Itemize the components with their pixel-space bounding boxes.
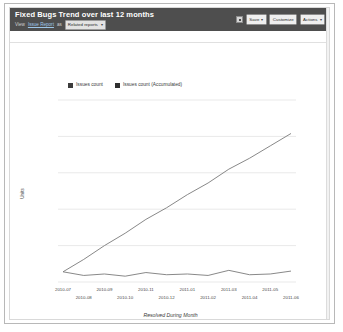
- view-label: View: [15, 22, 25, 28]
- series-line-issues-count: [63, 270, 291, 276]
- save-button[interactable]: Save ▾: [246, 14, 267, 25]
- x-axis-tick-label: 2010-11: [138, 287, 154, 292]
- grid-icon[interactable]: [236, 16, 243, 23]
- issue-report-link[interactable]: Issue Report: [28, 22, 54, 28]
- header-actions-group: Save ▾ Customize Actions ▾: [236, 14, 325, 25]
- chevron-down-icon: ▾: [320, 16, 322, 24]
- customize-button[interactable]: Customize: [269, 14, 297, 25]
- legend-swatch-issues-count: [68, 83, 73, 88]
- x-axis-tick-label: 2010-07: [55, 287, 71, 292]
- vertical-scrollbar[interactable]: [326, 8, 329, 319]
- x-axis-tick-label: 2011-02: [200, 295, 216, 300]
- x-axis-tick-label: 2010-12: [159, 295, 175, 300]
- series-line-issues-count-accumulated: [63, 133, 291, 271]
- related-reports-value: Related reports: [68, 21, 98, 29]
- y-axis-label: Units: [20, 174, 25, 214]
- legend-label-issues-count: Issues count: [76, 82, 103, 88]
- legend-item-issues-count-accumulated: Issues count (Accumulated): [115, 82, 182, 88]
- view-connector-label: as: [57, 22, 62, 28]
- x-axis-tick-label: 2011-04: [242, 295, 258, 300]
- report-subtitle-bar: All Bugzendor data from current view: [10, 31, 329, 43]
- legend-label-issues-count-accumulated: Issues count (Accumulated): [123, 82, 182, 88]
- chevron-down-icon: ▾: [101, 21, 103, 29]
- save-button-label: Save: [249, 15, 259, 24]
- x-axis-label: Resolved During Month: [10, 312, 330, 318]
- chart-legend: Issues count Issues count (Accumulated): [68, 82, 182, 88]
- x-axis-tick-label: 2011-05: [262, 287, 278, 292]
- x-axis-tick-label: 2010-09: [96, 287, 112, 292]
- x-axis-tick-label: 2011-01: [179, 287, 195, 292]
- legend-item-issues-count: Issues count: [68, 82, 103, 88]
- legend-swatch-issues-count-accumulated: [115, 83, 120, 88]
- chart-container: Issues count Issues count (Accumulated) …: [10, 43, 330, 320]
- report-page-frame: Fixed Bugs Trend over last 12 months Vie…: [4, 3, 335, 324]
- actions-button[interactable]: Actions ▾: [300, 14, 325, 25]
- report-header-bar: Fixed Bugs Trend over last 12 months Vie…: [10, 8, 329, 31]
- x-axis-tick-label: 2011-03: [221, 287, 237, 292]
- related-reports-dropdown[interactable]: Related reports ▾: [65, 20, 106, 30]
- x-axis-tick-label: 2010-10: [117, 295, 133, 300]
- x-axis-tick-label: 2011-06: [283, 295, 299, 300]
- actions-button-label: Actions: [303, 15, 317, 24]
- report-card: Fixed Bugs Trend over last 12 months Vie…: [9, 7, 330, 320]
- customize-button-label: Customize: [273, 15, 294, 24]
- chevron-down-icon: ▾: [261, 16, 263, 24]
- x-axis-tick-label: 2010-08: [76, 295, 92, 300]
